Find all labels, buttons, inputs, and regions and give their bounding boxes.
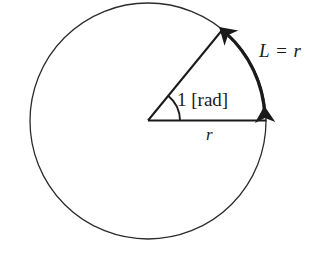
angle-label: 1 [rad] bbox=[177, 90, 228, 109]
diagram-canvas bbox=[0, 0, 318, 253]
radian-diagram-figure: L = r 1 [rad] r bbox=[0, 0, 318, 253]
arc-length-label: L = r bbox=[259, 41, 301, 60]
radius-label: r bbox=[206, 126, 213, 143]
